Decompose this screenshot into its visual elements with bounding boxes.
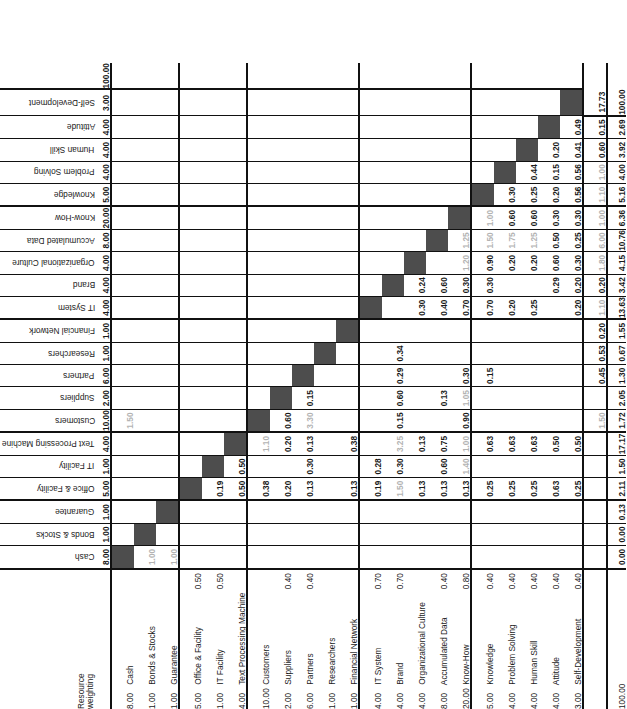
column-header-customers: Customers bbox=[0, 409, 96, 432]
matrix-cell bbox=[314, 523, 336, 545]
matrix-cell: 1.00 bbox=[156, 546, 179, 569]
matrix-cell bbox=[134, 432, 156, 455]
column-header-label: Human Skill bbox=[50, 146, 94, 154]
row-weighting-cell bbox=[404, 569, 426, 593]
matrix-cell: 0.75 bbox=[426, 432, 448, 455]
table-row: 4.00 Problem Solving0.400.250.630.200.20… bbox=[494, 63, 516, 709]
bottom-weighting-cell: 0.53 bbox=[583, 342, 607, 364]
matrix-cell bbox=[224, 89, 247, 115]
column-header-it-system: IT System bbox=[0, 296, 96, 319]
matrix-cell bbox=[494, 387, 516, 409]
matrix-cell: 0.15 bbox=[292, 387, 314, 409]
column-weight-row: 8.001.001.005.001.004.0010.002.006.001.0… bbox=[96, 63, 111, 709]
matrix-cell bbox=[426, 252, 448, 274]
matrix-cell bbox=[471, 409, 494, 432]
column-weight: 8.00 bbox=[96, 546, 111, 569]
matrix-cell bbox=[156, 296, 179, 319]
matrix-cell: 0.25 bbox=[516, 478, 538, 501]
row-label: Office & Facility bbox=[193, 627, 203, 687]
matrix-cell bbox=[336, 455, 359, 477]
matrix-cell bbox=[448, 161, 471, 183]
matrix-cell bbox=[179, 161, 202, 183]
matrix-cell bbox=[538, 409, 560, 432]
matrix-cell bbox=[314, 89, 336, 115]
row-weight-value: 1.00 bbox=[216, 687, 224, 709]
row-label: Customers bbox=[261, 645, 271, 687]
matrix-cell bbox=[111, 365, 134, 387]
matrix-cell: 0.19 bbox=[202, 478, 224, 501]
matrix-cell bbox=[292, 183, 314, 206]
table-row: 1.00 Financial Network0.130.38 bbox=[336, 63, 359, 709]
column-total-cell: 0.00 bbox=[607, 523, 626, 545]
matrix-cell bbox=[471, 116, 494, 139]
row-total-cell bbox=[336, 63, 359, 89]
column-total-cell: 0.67 bbox=[607, 342, 626, 364]
matrix-cell bbox=[516, 500, 538, 523]
matrix-cell bbox=[179, 116, 202, 139]
matrix-cell bbox=[247, 500, 270, 523]
matrix-cell bbox=[224, 365, 247, 387]
matrix-cell: 0.40 bbox=[426, 296, 448, 319]
matrix-cell bbox=[292, 252, 314, 274]
matrix-cell: 1.25 bbox=[516, 229, 538, 251]
matrix-cell bbox=[359, 319, 382, 342]
row-header-self-development: 3.00 Self-Development bbox=[560, 593, 583, 709]
diagonal-cell bbox=[202, 455, 224, 477]
matrix-cell bbox=[516, 409, 538, 432]
row-total-cell bbox=[359, 63, 382, 89]
column-weight: 4.00 bbox=[96, 296, 111, 319]
column-weight: 1.00 bbox=[96, 319, 111, 342]
matrix-cell bbox=[336, 546, 359, 569]
matrix-cell bbox=[202, 296, 224, 319]
matrix-cell bbox=[404, 365, 426, 387]
matrix-cell: 0.63 bbox=[516, 432, 538, 455]
matrix-cell bbox=[247, 296, 270, 319]
column-header-brand: Brand bbox=[0, 274, 96, 296]
matrix-cell: 0.13 bbox=[426, 387, 448, 409]
matrix-cell bbox=[448, 116, 471, 139]
column-header-problem-solving: Problem Solving bbox=[0, 161, 96, 183]
row-total-cell bbox=[247, 63, 270, 89]
matrix-cell bbox=[494, 546, 516, 569]
matrix-cell bbox=[336, 296, 359, 319]
row-weight-value: 1.00 bbox=[328, 687, 336, 709]
matrix-cell bbox=[314, 387, 336, 409]
column-weight: 3.00 bbox=[96, 89, 111, 115]
row-weight-value: 8.00 bbox=[440, 687, 448, 709]
matrix-cell bbox=[560, 409, 583, 432]
column-header-accumulated-data: Accumulated Data bbox=[0, 229, 96, 251]
column-header-text-processing-machine: Text Processing Machine bbox=[0, 432, 96, 455]
column-header-label: IT System bbox=[58, 303, 95, 311]
matrix-cell bbox=[494, 342, 516, 364]
row-weight-value: 4.00 bbox=[530, 687, 538, 709]
column-header-label: Attitude bbox=[67, 123, 95, 131]
matrix-cell bbox=[516, 274, 538, 296]
bottom-weighting-cell bbox=[583, 523, 607, 545]
matrix-cell bbox=[404, 183, 426, 206]
matrix-cell bbox=[270, 139, 292, 161]
matrix-cell bbox=[382, 296, 404, 319]
row-total-cell bbox=[560, 63, 583, 89]
matrix-cell: 0.20 bbox=[494, 296, 516, 319]
column-header-label: Guarantee bbox=[55, 508, 94, 516]
matrix-cell bbox=[270, 161, 292, 183]
matrix-cell bbox=[404, 500, 426, 523]
diagonal-cell bbox=[314, 342, 336, 364]
matrix-cell bbox=[494, 500, 516, 523]
row-total-cell bbox=[292, 63, 314, 89]
column-total-cell: 13.63 bbox=[607, 296, 626, 319]
column-header-row: Resource weighting CashBonds & StocksGua… bbox=[0, 63, 96, 709]
matrix-cell bbox=[516, 365, 538, 387]
matrix-cell bbox=[134, 387, 156, 409]
matrix-cell bbox=[292, 206, 314, 229]
column-header-guarantee: Guarantee bbox=[0, 500, 96, 523]
diagonal-cell bbox=[494, 161, 516, 183]
table-row: 8.00 Cash1.50 bbox=[111, 63, 134, 709]
matrix-cell bbox=[404, 161, 426, 183]
matrix-cell bbox=[494, 523, 516, 545]
row-header-financial-network: 1.00 Financial Network bbox=[336, 593, 359, 709]
matrix-cell bbox=[314, 116, 336, 139]
matrix-cell: 0.25 bbox=[516, 296, 538, 319]
matrix-cell bbox=[292, 319, 314, 342]
matrix-cell bbox=[224, 183, 247, 206]
